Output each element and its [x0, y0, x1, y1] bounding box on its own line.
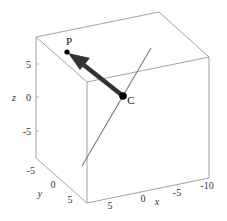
x-tick-0: 0 [141, 193, 146, 204]
y-tick-minus5: -5 [27, 165, 35, 176]
bounding-box [36, 12, 209, 203]
y-tick-0: 0 [51, 179, 56, 190]
x-tick-minus10: -10 [200, 180, 213, 191]
x-axis-label: x [154, 196, 160, 207]
x-tick-minus5: -5 [173, 187, 181, 198]
point-p [64, 49, 69, 54]
point-c [119, 92, 127, 100]
y-axis-label: y [37, 188, 43, 199]
z-axis-ticks [36, 64, 39, 131]
z-tick-5: 5 [26, 59, 31, 70]
y-tick-5: 5 [68, 194, 73, 205]
line-series [82, 48, 151, 166]
z-tick-minus5: -5 [23, 126, 31, 137]
point-p-label: P [66, 35, 72, 47]
x-tick-5: 5 [108, 200, 113, 211]
z-tick-0: 0 [26, 92, 31, 103]
z-axis-label: z [11, 92, 16, 103]
3d-plot: 5 0 -5 z -5 0 5 y 5 0 -5 -10 x P C [0, 0, 227, 221]
vector-arrow [68, 53, 123, 96]
point-c-label: C [127, 94, 134, 106]
